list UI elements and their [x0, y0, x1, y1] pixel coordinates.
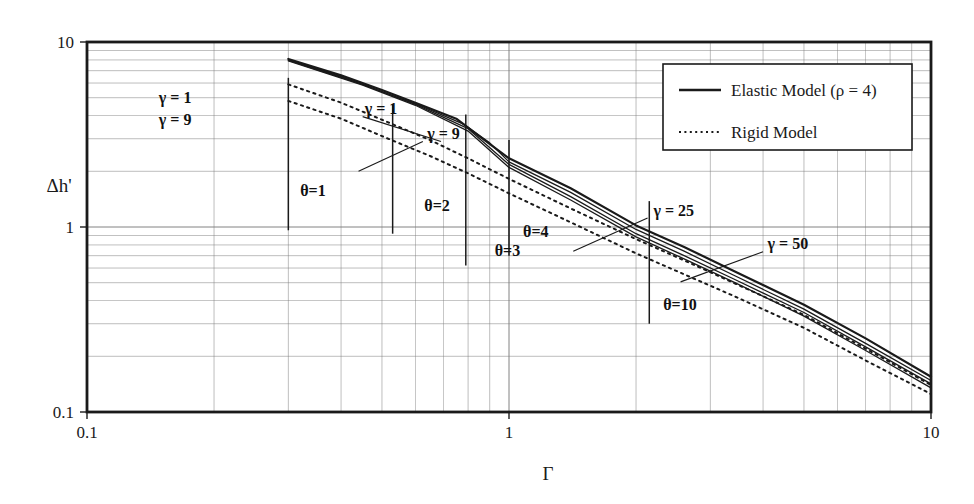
annotation-theta-4: θ=4: [523, 223, 548, 240]
annotation-theta-3: θ=3: [495, 242, 520, 259]
annotation-gamma-1-left: γ = 1: [158, 89, 192, 107]
annotation-theta-10: θ=10: [663, 296, 696, 313]
annotation-gamma-9-left: γ = 9: [158, 111, 192, 129]
x-tick-label: 10: [923, 423, 940, 442]
y-tick-label: 0.1: [53, 403, 74, 422]
annotation-theta-2: θ=2: [424, 197, 449, 214]
annotation-gamma-1-mid: γ = 1: [364, 100, 398, 118]
y-tick-label: 10: [57, 33, 74, 52]
x-tick-label: 0.1: [76, 423, 97, 442]
x-axis-title: Γ: [543, 463, 554, 484]
annotation-gamma-9-mid: γ = 9: [426, 125, 460, 143]
y-tick-label: 1: [66, 218, 75, 237]
legend-label: Rigid Model: [731, 123, 818, 142]
legend: Elastic Model (ρ = 4)Rigid Model: [663, 64, 912, 150]
annotation-theta-1: θ=1: [300, 182, 325, 199]
figure-root: 0.11100.1110 γ = 1γ = 9γ = 1γ = 9γ = 25γ…: [0, 0, 974, 504]
annotation-gamma-50: γ = 50: [767, 235, 809, 253]
legend-label: Elastic Model (ρ = 4): [731, 81, 877, 100]
y-axis-title: Δh': [46, 175, 71, 196]
log-log-chart: 0.11100.1110 γ = 1γ = 9γ = 1γ = 9γ = 25γ…: [0, 0, 974, 504]
annotation-gamma-25: γ = 25: [653, 202, 695, 220]
x-tick-label: 1: [505, 423, 514, 442]
